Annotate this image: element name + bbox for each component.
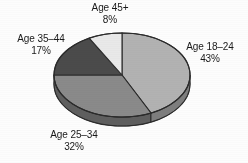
slice-label-age-35-44: Age 35–44 17% [4, 33, 78, 56]
slice-label-age-25-34-name: Age 25–34 [50, 129, 97, 140]
slice-label-age-25-34: Age 25–34 32% [34, 129, 114, 152]
slice-label-age-18-24-value: 43% [174, 53, 246, 65]
slice-label-age-18-24-name: Age 18–24 [186, 41, 233, 52]
slice-label-age-35-44-value: 17% [4, 45, 78, 57]
slice-label-age-35-44-name: Age 35–44 [17, 33, 64, 44]
slice-label-age-18-24: Age 18–24 43% [174, 41, 246, 64]
pie-chart: Age 45+ 8% Age 35–44 17% Age 18–24 43% A… [0, 0, 248, 163]
slice-label-age-45-plus-value: 8% [74, 14, 146, 26]
slice-label-age-45-plus: Age 45+ 8% [74, 2, 146, 25]
slice-label-age-25-34-value: 32% [34, 141, 114, 153]
slice-label-age-45-plus-name: Age 45+ [92, 2, 129, 13]
